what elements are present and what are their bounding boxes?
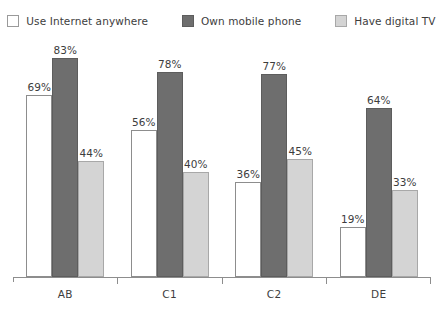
bar-group-ab: 69% 83% 44% bbox=[13, 40, 118, 277]
legend-label-series-2: Have digital TV bbox=[354, 15, 435, 27]
x-axis-ticks bbox=[13, 278, 431, 284]
bar-wrap: 56% bbox=[131, 40, 157, 277]
plot-area: 69% 83% 44% 56% bbox=[13, 40, 431, 278]
x-axis-label-c1: C1 bbox=[118, 288, 223, 306]
bar-groups: 69% 83% 44% 56% bbox=[13, 40, 431, 277]
bar-value-label: 36% bbox=[236, 168, 260, 180]
bar-wrap: 77% bbox=[261, 40, 287, 277]
bar-value-label: 45% bbox=[288, 145, 312, 157]
bar-group-c2: 36% 77% 45% bbox=[222, 40, 327, 277]
bar-wrap: 83% bbox=[52, 40, 78, 277]
bar-wrap: 44% bbox=[78, 40, 104, 277]
x-axis-label-ab: AB bbox=[13, 288, 118, 306]
bar-value-label: 78% bbox=[158, 58, 182, 70]
bar-value-label: 56% bbox=[132, 116, 156, 128]
bar-wrap: 45% bbox=[287, 40, 313, 277]
bar-wrap: 19% bbox=[340, 40, 366, 277]
legend-item-have-digital-tv: Have digital TV bbox=[335, 15, 435, 27]
bar-wrap: 36% bbox=[235, 40, 261, 277]
bar-value-label: 83% bbox=[53, 44, 77, 56]
chart-legend: Use Internet anywhere Own mobile phone H… bbox=[0, 8, 443, 34]
axis-tick bbox=[222, 278, 223, 284]
axis-tick bbox=[117, 278, 118, 284]
bar-c1-have-digital-tv: 40% bbox=[183, 172, 209, 277]
bar-value-label: 40% bbox=[184, 158, 208, 170]
bar-group-de: 19% 64% 33% bbox=[327, 40, 432, 277]
bar-c2-have-digital-tv: 45% bbox=[287, 159, 313, 278]
bar-chart: Use Internet anywhere Own mobile phone H… bbox=[0, 0, 443, 328]
x-axis-label-de: DE bbox=[327, 288, 432, 306]
legend-swatch-icon-series-1 bbox=[182, 15, 194, 27]
bar-c1-use-internet-anywhere: 56% bbox=[131, 130, 157, 277]
x-axis-category-labels: AB C1 C2 DE bbox=[13, 288, 431, 306]
bar-value-label: 64% bbox=[367, 94, 391, 106]
legend-swatch-icon-series-2 bbox=[335, 15, 347, 27]
bar-ab-own-mobile-phone: 83% bbox=[52, 58, 78, 277]
bar-group-c1: 56% 78% 40% bbox=[118, 40, 223, 277]
bar-de-have-digital-tv: 33% bbox=[392, 190, 418, 277]
bar-value-label: 69% bbox=[27, 81, 51, 93]
legend-item-use-internet-anywhere: Use Internet anywhere bbox=[7, 15, 148, 27]
bar-wrap: 40% bbox=[183, 40, 209, 277]
bar-value-label: 77% bbox=[262, 60, 286, 72]
bar-value-label: 44% bbox=[79, 147, 103, 159]
bar-c2-use-internet-anywhere: 36% bbox=[235, 182, 261, 277]
bar-c1-own-mobile-phone: 78% bbox=[157, 72, 183, 277]
bar-wrap: 33% bbox=[392, 40, 418, 277]
legend-item-own-mobile-phone: Own mobile phone bbox=[182, 15, 301, 27]
bar-ab-have-digital-tv: 44% bbox=[78, 161, 104, 277]
bar-de-use-internet-anywhere: 19% bbox=[340, 227, 366, 277]
bar-value-label: 19% bbox=[341, 213, 365, 225]
axis-tick bbox=[326, 278, 327, 284]
bar-wrap: 78% bbox=[157, 40, 183, 277]
x-axis-label-c2: C2 bbox=[222, 288, 327, 306]
bar-wrap: 69% bbox=[26, 40, 52, 277]
legend-label-series-0: Use Internet anywhere bbox=[26, 15, 148, 27]
bar-ab-use-internet-anywhere: 69% bbox=[26, 95, 52, 277]
bar-c2-own-mobile-phone: 77% bbox=[261, 74, 287, 277]
legend-label-series-1: Own mobile phone bbox=[201, 15, 301, 27]
bar-value-label: 33% bbox=[393, 176, 417, 188]
legend-swatch-icon-series-0 bbox=[7, 15, 19, 27]
axis-tick bbox=[430, 278, 431, 284]
bar-de-own-mobile-phone: 64% bbox=[366, 108, 392, 277]
bar-wrap: 64% bbox=[366, 40, 392, 277]
